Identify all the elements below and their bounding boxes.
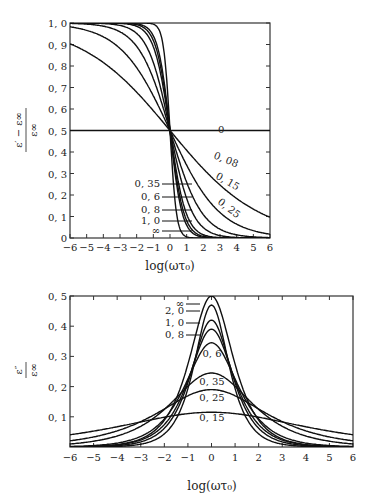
svg-text:ε′ − ε∞: ε′ − ε∞ bbox=[13, 112, 24, 148]
x-tick-label: 1 bbox=[183, 242, 189, 253]
y-tick-label: 0, 6 bbox=[48, 104, 67, 115]
label-center: 0, 15 bbox=[199, 412, 224, 423]
x-tick-label: −5 bbox=[86, 452, 101, 463]
x-tick-label: 3 bbox=[217, 242, 223, 253]
plot-frame bbox=[70, 296, 353, 447]
y-tick-label: 0, 5 bbox=[48, 291, 67, 302]
x-tick-label: −3 bbox=[133, 452, 148, 463]
x-tick-label: −2 bbox=[157, 452, 172, 463]
top-chart: −6−5−4−3−2−1012345600, 10, 20, 30, 40, 5… bbox=[48, 18, 273, 253]
x-tick-label: 5 bbox=[326, 452, 332, 463]
x-tick-label: 6 bbox=[267, 242, 273, 253]
x-tick-label: 4 bbox=[233, 242, 239, 253]
label-left: 1, 0 bbox=[165, 317, 184, 328]
label-left: ∞ bbox=[152, 225, 160, 236]
y-tick-label: 0, 3 bbox=[48, 169, 67, 180]
label-0.15: 0, 15 bbox=[214, 170, 242, 192]
x-tick-label: 5 bbox=[250, 242, 256, 253]
x-tick-label: 3 bbox=[279, 452, 285, 463]
label-center: 0, 35 bbox=[199, 376, 224, 387]
x-tick-label: −2 bbox=[129, 242, 144, 253]
label-0.08: 0, 08 bbox=[212, 150, 240, 170]
bottom-chart: −6−5−4−3−2−101234560, 10, 20, 30, 40, 5∞… bbox=[48, 291, 356, 463]
svg-text:ε″: ε″ bbox=[13, 365, 24, 374]
svg-text:ε∞: ε∞ bbox=[28, 363, 39, 377]
label-left: 0, 6 bbox=[141, 191, 160, 202]
x-tick-label: 2 bbox=[200, 242, 206, 253]
x-tick-label: −5 bbox=[79, 242, 94, 253]
x-tick-label: 0 bbox=[167, 242, 173, 253]
y-tick-label: 1, 0 bbox=[48, 18, 67, 29]
label-left: 0, 8 bbox=[141, 204, 160, 215]
x-tick-label: 0 bbox=[208, 452, 214, 463]
y-tick-label: 0, 4 bbox=[48, 147, 67, 158]
x-tick-label: −1 bbox=[181, 452, 196, 463]
bottom-y-axis-label: ε″ ε∞ bbox=[13, 362, 39, 378]
y-tick-label: 0 bbox=[61, 233, 67, 244]
label-center: 0, 25 bbox=[199, 392, 224, 403]
top-y-axis-label: ε′ − ε∞ ε∞ bbox=[13, 108, 39, 152]
label-center: 0, 6 bbox=[202, 348, 221, 359]
x-tick-label: −4 bbox=[96, 242, 111, 253]
y-tick-label: 0, 2 bbox=[48, 382, 67, 393]
y-tick-label: 0, 2 bbox=[48, 190, 67, 201]
label-left: 0, 8 bbox=[165, 329, 184, 340]
y-tick-label: 0, 9 bbox=[48, 40, 67, 51]
x-tick-label: 2 bbox=[255, 452, 261, 463]
y-tick-label: 0, 7 bbox=[48, 83, 67, 94]
y-tick-label: 0, 3 bbox=[48, 351, 67, 362]
curve-∞ bbox=[70, 296, 353, 447]
x-tick-label: 6 bbox=[350, 452, 356, 463]
x-tick-label: −1 bbox=[146, 242, 161, 253]
label-left: 0, 35 bbox=[135, 178, 160, 189]
label-left: 2, 0 bbox=[165, 305, 184, 316]
figure: −6−5−4−3−2−1012345600, 10, 20, 30, 40, 5… bbox=[0, 0, 376, 497]
y-tick-label: 0, 1 bbox=[48, 412, 67, 423]
label-0: 0 bbox=[218, 124, 224, 135]
svg-text:ε∞: ε∞ bbox=[28, 123, 39, 137]
x-tick-label: 4 bbox=[303, 452, 309, 463]
y-tick-label: 0, 5 bbox=[48, 126, 67, 137]
curve-0.8 bbox=[70, 329, 353, 447]
bottom-x-axis-label: log(ωτ₀) bbox=[187, 479, 236, 493]
y-tick-label: 0, 1 bbox=[48, 212, 67, 223]
x-tick-label: −4 bbox=[110, 452, 125, 463]
top-x-axis-label: log(ωτ₀) bbox=[145, 259, 194, 273]
x-tick-label: 1 bbox=[232, 452, 238, 463]
x-tick-label: −3 bbox=[113, 242, 128, 253]
y-tick-label: 0, 8 bbox=[48, 61, 67, 72]
y-tick-label: 0, 4 bbox=[48, 321, 67, 332]
x-tick-label: −6 bbox=[63, 452, 78, 463]
